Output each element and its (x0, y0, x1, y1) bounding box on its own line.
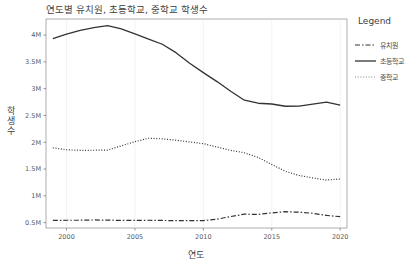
y-tick-label: 2M (31, 139, 41, 147)
x-tick-label: 2000 (58, 233, 75, 241)
y-tick-label: 3.5M (25, 58, 41, 66)
legend-label-유치원: 유치원 (380, 41, 398, 50)
y-tick-label: 0.5M (25, 219, 41, 227)
plot-panel (46, 19, 347, 228)
y-tick-label: 1M (31, 192, 41, 200)
legend-title: Legend (358, 16, 391, 26)
chart-title: 연도별 유치원, 초등학교, 중학교 학생수 (46, 4, 208, 15)
line-chart: 연도별 유치원, 초등학교, 중학교 학생수 20002005201020152… (0, 0, 412, 265)
y-axis-title-char: 생 (7, 116, 15, 126)
y-tick-label: 2.5M (25, 112, 41, 120)
x-tick-label: 2010 (195, 233, 212, 241)
legend-label-초등학교: 초등학교 (380, 57, 405, 66)
y-axis: 0.5M1M1.5M2M2.5M3M3.5M4M (25, 31, 46, 227)
y-tick-label: 3M (31, 85, 41, 93)
y-tick-label: 1.5M (25, 165, 41, 173)
x-axis: 20002005201020152020 (58, 228, 348, 241)
y-tick-label: 4M (31, 31, 41, 39)
x-tick-label: 2015 (263, 233, 280, 241)
x-tick-label: 2020 (332, 233, 349, 241)
x-axis-title: 연도 (188, 250, 204, 260)
y-axis-title: 학생수 (7, 106, 15, 136)
legend-label-중학교: 중학교 (380, 73, 399, 82)
legend-items: 유치원초등학교중학교 (355, 41, 405, 82)
legend: Legend 유치원초등학교중학교 (355, 16, 405, 82)
chart-title-group: 연도별 유치원, 초등학교, 중학교 학생수 (46, 4, 208, 15)
chart-container: 연도별 유치원, 초등학교, 중학교 학생수 20002005201020152… (0, 0, 412, 265)
x-tick-label: 2005 (127, 233, 144, 241)
y-axis-title-char: 수 (7, 126, 15, 136)
y-axis-title-char: 학 (7, 106, 15, 116)
